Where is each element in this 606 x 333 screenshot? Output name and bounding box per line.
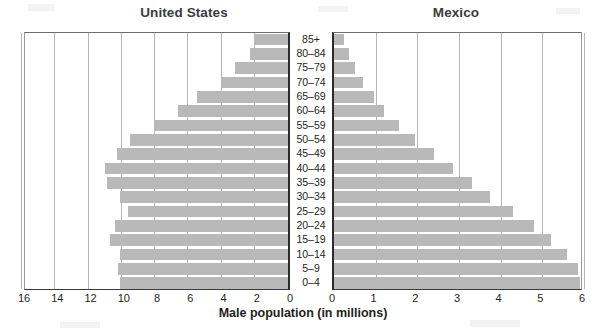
bar bbox=[334, 277, 580, 289]
bar bbox=[334, 62, 355, 74]
chart-title-united-states: United States bbox=[104, 5, 264, 20]
x-tick-label: 0 bbox=[320, 292, 344, 304]
bar bbox=[120, 277, 288, 289]
bar bbox=[115, 220, 288, 232]
bar-row bbox=[25, 234, 288, 247]
bar bbox=[120, 191, 288, 203]
bar-row bbox=[334, 133, 581, 146]
age-group-label: 85+ bbox=[290, 33, 332, 46]
x-tick-label: 0 bbox=[278, 292, 302, 304]
age-group-label: 75–79 bbox=[290, 61, 332, 74]
bar-row bbox=[25, 105, 288, 118]
bar-row bbox=[25, 191, 288, 204]
bar bbox=[130, 134, 288, 146]
bar-row bbox=[25, 90, 288, 103]
bar-row bbox=[334, 191, 581, 204]
bar bbox=[107, 177, 288, 189]
age-group-label: 15–19 bbox=[290, 233, 332, 246]
bar-row bbox=[334, 33, 581, 46]
age-group-label: 30–34 bbox=[290, 190, 332, 203]
x-tick-label: 4 bbox=[487, 292, 511, 304]
bar-row bbox=[25, 162, 288, 175]
gridline bbox=[21, 33, 22, 289]
bar bbox=[255, 34, 288, 46]
bar bbox=[235, 62, 288, 74]
page-speckle bbox=[60, 322, 100, 328]
age-group-label: 45–49 bbox=[290, 147, 332, 160]
bars-mexico bbox=[334, 33, 581, 289]
age-group-label: 25–29 bbox=[290, 205, 332, 218]
bar bbox=[334, 105, 384, 117]
x-tick-label: 8 bbox=[145, 292, 169, 304]
bar bbox=[120, 249, 288, 261]
bar-row bbox=[25, 219, 288, 232]
bar bbox=[334, 234, 551, 246]
bar-row bbox=[25, 133, 288, 146]
bar-row bbox=[334, 90, 581, 103]
bar bbox=[197, 91, 288, 103]
bar-row bbox=[334, 248, 581, 261]
bar bbox=[334, 134, 415, 146]
bar-row bbox=[25, 277, 288, 290]
bar-row bbox=[25, 148, 288, 161]
age-group-label: 0–4 bbox=[290, 276, 332, 289]
plot-area-united-states bbox=[24, 32, 290, 290]
x-tick-label: 2 bbox=[403, 292, 427, 304]
age-group-label: 5–9 bbox=[290, 262, 332, 275]
x-tick-label: 10 bbox=[112, 292, 136, 304]
age-group-label: 10–14 bbox=[290, 248, 332, 261]
bar bbox=[222, 77, 289, 89]
bar bbox=[334, 163, 453, 175]
x-tick-label: 16 bbox=[12, 292, 36, 304]
x-tick-label: 5 bbox=[528, 292, 552, 304]
bar-row bbox=[25, 248, 288, 261]
population-pyramid-chart: United States Mexico 85+80–8475–7970–746… bbox=[0, 0, 606, 333]
bar bbox=[334, 177, 472, 189]
age-group-label: 40–44 bbox=[290, 162, 332, 175]
age-group-label: 50–54 bbox=[290, 133, 332, 146]
bar-row bbox=[334, 205, 581, 218]
x-tick-label: 4 bbox=[212, 292, 236, 304]
bar bbox=[178, 105, 288, 117]
bar bbox=[334, 191, 490, 203]
bar-row bbox=[25, 176, 288, 189]
bar bbox=[105, 163, 288, 175]
age-group-axis: 85+80–8475–7970–7465–6960–6455–5950–5445… bbox=[290, 32, 332, 290]
bar bbox=[334, 34, 344, 46]
bar bbox=[334, 263, 578, 275]
bar bbox=[128, 206, 288, 218]
bar-row bbox=[25, 33, 288, 46]
x-tick-label: 3 bbox=[445, 292, 469, 304]
bar bbox=[334, 120, 399, 132]
bar bbox=[334, 48, 349, 60]
age-group-label: 20–24 bbox=[290, 219, 332, 232]
bar bbox=[334, 206, 513, 218]
age-group-label: 35–39 bbox=[290, 176, 332, 189]
bar bbox=[334, 249, 567, 261]
plot-area-mexico bbox=[332, 32, 582, 290]
bar bbox=[334, 91, 374, 103]
bar bbox=[250, 48, 288, 60]
x-tick-label: 6 bbox=[570, 292, 594, 304]
bar bbox=[117, 148, 288, 160]
x-axis-label: Male population (in millions) bbox=[0, 306, 606, 320]
bar-row bbox=[25, 205, 288, 218]
bars-united-states bbox=[25, 33, 288, 289]
x-tick-label: 1 bbox=[362, 292, 386, 304]
gridline bbox=[584, 33, 585, 289]
age-group-label: 55–59 bbox=[290, 119, 332, 132]
bar-row bbox=[334, 176, 581, 189]
page-speckle bbox=[470, 320, 520, 327]
bar-row bbox=[334, 234, 581, 247]
bar-row bbox=[334, 62, 581, 75]
bar bbox=[155, 120, 288, 132]
bar-row bbox=[334, 148, 581, 161]
bar-row bbox=[25, 76, 288, 89]
page-speckle bbox=[28, 4, 54, 11]
bar-row bbox=[334, 47, 581, 60]
bar-row bbox=[334, 277, 581, 290]
chart-title-mexico: Mexico bbox=[376, 5, 536, 20]
x-tick-label: 2 bbox=[245, 292, 269, 304]
bar-row bbox=[25, 262, 288, 275]
x-tick-label: 14 bbox=[45, 292, 69, 304]
